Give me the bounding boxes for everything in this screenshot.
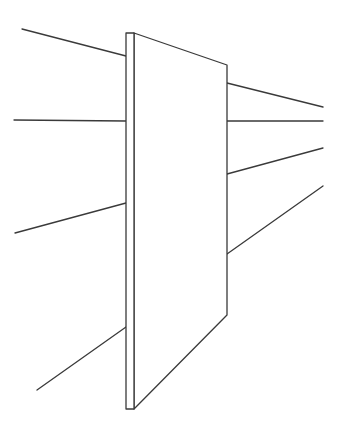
right-lines (227, 83, 323, 254)
left-line-4 (37, 327, 126, 390)
panel-face (134, 33, 227, 409)
left-lines (14, 29, 126, 390)
panel-perspective-drawing (0, 0, 337, 424)
left-line-2 (14, 120, 126, 121)
panel-edge-strip (126, 33, 134, 409)
diagram-canvas (0, 0, 337, 424)
right-line-1 (227, 83, 323, 107)
left-line-3 (15, 203, 126, 233)
right-line-4 (227, 186, 323, 254)
right-line-3 (227, 148, 323, 174)
left-line-1 (22, 29, 126, 56)
